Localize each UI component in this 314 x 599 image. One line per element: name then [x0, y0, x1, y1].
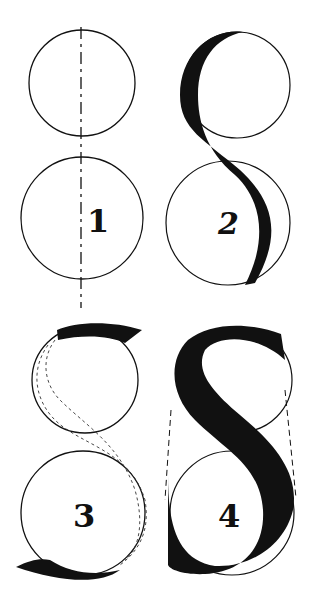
panel-3: 3 [16, 323, 146, 580]
panel-1-top-circle [29, 30, 135, 136]
panel-1-bottom-circle [21, 157, 143, 279]
panel-4: 4 [165, 326, 296, 575]
panel-2: 2 [166, 32, 290, 285]
panel-1-step-number: 1 [87, 202, 109, 240]
letter-s-construction-diagram: 1 2 3 4 [0, 0, 314, 599]
panel-4-step-number: 4 [218, 497, 240, 535]
panel-3-top-terminal [57, 323, 142, 343]
panel-2-s-stroke [180, 32, 271, 285]
panel-4-s-stroke [168, 326, 294, 574]
panel-2-step-number: 2 [217, 206, 239, 241]
panel-3-step-number: 3 [73, 497, 95, 535]
panel-3-bottom-terminal [16, 559, 120, 580]
panel-1: 1 [21, 27, 143, 308]
